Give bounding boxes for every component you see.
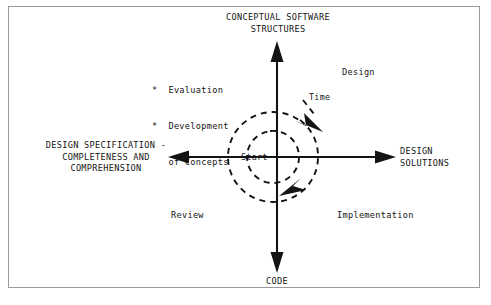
spiral-start-label: Start xyxy=(241,152,268,164)
bullet-item: * Development xyxy=(152,120,229,132)
quadrant-label-implementation: Implementation xyxy=(337,210,414,222)
quadrant-label-design: Design xyxy=(342,67,375,79)
axis-label-design-solutions: DESIGN SOLUTIONS xyxy=(400,146,484,169)
bullet-item: of Concepts xyxy=(152,156,229,168)
evaluation-bullet-list: * Evaluation * Development of Concepts xyxy=(152,60,229,192)
spiral-time-label: Time xyxy=(309,92,330,104)
axis-arrowhead-up xyxy=(271,41,284,62)
axis-label-conceptual-software-structures: CONCEPTUAL SOFTWARE STRUCTURES xyxy=(206,12,350,35)
axis-arrowhead-down xyxy=(271,252,284,273)
bullet-item: * Evaluation xyxy=(152,84,229,96)
axis-arrowhead-right xyxy=(375,151,396,164)
axis-label-design-specification: DESIGN SPECIFICATION - COMPLETENESS AND … xyxy=(44,140,168,175)
spiral-arrowhead-lower xyxy=(279,178,306,196)
axis-label-code: CODE xyxy=(240,276,314,288)
figure-root: CONCEPTUAL SOFTWARE STRUCTURES CODE DESI… xyxy=(0,0,491,305)
quadrant-label-review: Review xyxy=(171,210,204,222)
